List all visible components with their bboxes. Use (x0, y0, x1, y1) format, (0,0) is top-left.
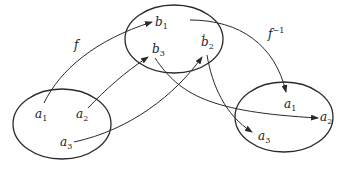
label-right-a3: a3 (258, 129, 270, 145)
label-b3: b3 (152, 42, 165, 58)
arrow-f-a3-b2 (74, 57, 202, 142)
arrow-f-a1-b1 (44, 22, 152, 103)
label-f-inverse: f−1 (267, 26, 284, 41)
label-b2: b2 (201, 35, 214, 51)
label-left-a1: a1 (35, 107, 47, 123)
arrow-finv-b2-a3 (207, 55, 252, 132)
b2-dot-mark (203, 34, 205, 36)
function-inverse-diagram: f f−1 a1 a2 a3 b1 b3 b2 a1 a2 a3 (0, 0, 340, 175)
label-left-a3: a3 (60, 135, 72, 151)
label-f: f (73, 38, 81, 52)
arrow-f-a2-b3 (88, 57, 148, 108)
label-right-a1: a1 (284, 97, 296, 113)
label-right-a2: a2 (320, 110, 332, 126)
label-b1: b1 (155, 15, 168, 31)
label-left-a2: a2 (76, 107, 88, 123)
inverse-image-set-ellipse (235, 82, 333, 152)
